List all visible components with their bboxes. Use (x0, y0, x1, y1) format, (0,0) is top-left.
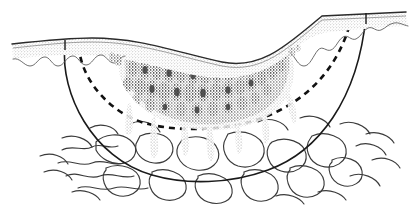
skin-cross-section-diagram: Skin cross-section with pigmented lesion… (0, 0, 414, 206)
figure-root: Skin cross-section with pigmented lesion… (0, 0, 414, 206)
